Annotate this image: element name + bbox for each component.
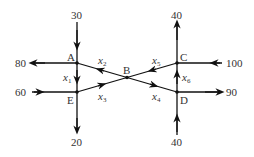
node-b-dot bbox=[125, 76, 129, 80]
arrow-x3-icon bbox=[98, 85, 102, 86]
flow-out-a-left: 80 bbox=[15, 58, 26, 69]
arrow-x4-icon bbox=[150, 84, 154, 85]
flow-in-d-bottom: 40 bbox=[171, 137, 182, 148]
node-c-dot bbox=[175, 61, 179, 65]
node-label-e: E bbox=[67, 95, 74, 106]
node-label-b: B bbox=[123, 65, 130, 76]
var-label-x6: x6 bbox=[182, 72, 190, 85]
node-label-d: D bbox=[180, 95, 188, 106]
node-d-dot bbox=[175, 90, 179, 94]
flow-in-a-top: 30 bbox=[71, 10, 82, 21]
var-label-x2: x2 bbox=[98, 55, 106, 68]
flow-in-e-left: 60 bbox=[15, 87, 26, 98]
flow-in-c-right: 100 bbox=[226, 58, 243, 69]
var-label-x4: x4 bbox=[152, 91, 160, 104]
flow-out-e-bottom: 20 bbox=[71, 137, 82, 148]
flow-out-d-right: 90 bbox=[226, 87, 237, 98]
node-e-dot bbox=[75, 90, 79, 94]
var-label-x1: x1 bbox=[63, 72, 71, 85]
node-label-c: C bbox=[180, 52, 187, 63]
network-diagram bbox=[0, 0, 254, 157]
arrow-x5-icon bbox=[152, 69, 156, 70]
node-label-a: A bbox=[67, 52, 75, 63]
node-a-dot bbox=[75, 61, 79, 65]
var-label-x5: x5 bbox=[152, 55, 160, 68]
var-label-x3: x3 bbox=[98, 91, 106, 104]
flow-out-c-top: 40 bbox=[171, 10, 182, 21]
